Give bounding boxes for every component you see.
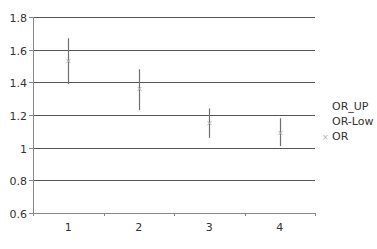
legend-item-or: OR [332,130,349,143]
x-tick-label: 2 [135,221,142,234]
chart-svg: 0.60.811.21.41.61.8 1234 OR_UP OR-Low × … [0,0,377,249]
legend-marker-or-icon: × [322,133,329,142]
y-tick-label: 1.8 [10,12,28,25]
y-tick-label: 1.2 [10,110,28,123]
y-tick-label: 1.6 [10,45,28,58]
x-tick-label: 4 [276,221,283,234]
y-tick-label: 1.4 [10,77,28,90]
legend: OR_UP OR-Low × OR [322,100,374,143]
x-tick-label: 3 [206,221,213,234]
error-bars [67,38,283,146]
x-tick-label: 1 [65,221,72,234]
y-tick-label: 1 [20,143,27,156]
gridlines [33,18,315,181]
x-axis: 1234 [33,213,316,234]
y-tick-label: 0.8 [10,175,28,188]
legend-item-or-up: OR_UP [332,100,369,113]
legend-item-or-low: OR-Low [332,115,374,128]
y-tick-label: 0.6 [10,208,28,221]
chart: 0.60.811.21.41.61.8 1234 OR_UP OR-Low × … [0,0,377,249]
y-axis: 0.60.811.21.41.61.8 [10,12,34,221]
